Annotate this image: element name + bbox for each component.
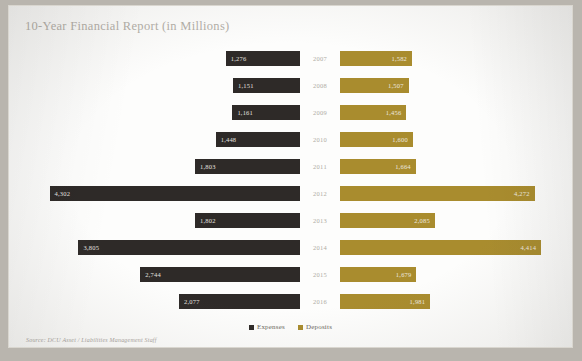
legend-label-deposits: Deposits — [306, 323, 332, 331]
chart-row: 1,80320111,664 — [9, 159, 572, 178]
legend-swatch-expenses-icon — [249, 325, 254, 330]
bar-expenses[interactable]: 2,077 — [179, 294, 300, 309]
chart-row: 3,80520144,414 — [9, 240, 572, 259]
bar-expenses[interactable]: 4,302 — [50, 186, 300, 201]
bar-value-expenses: 1,151 — [238, 82, 254, 89]
bar-deposits[interactable]: 1,582 — [340, 51, 412, 66]
category-label-year: 2016 — [300, 294, 340, 309]
chart-row: 1,16120091,456 — [9, 105, 572, 124]
bar-expenses[interactable]: 1,161 — [232, 105, 300, 120]
bar-value-expenses: 3,805 — [83, 244, 99, 251]
chart-row: 2,07720161,981 — [9, 294, 572, 313]
category-label-year: 2015 — [300, 267, 340, 282]
category-label-year: 2013 — [300, 213, 340, 228]
bar-value-deposits: 1,664 — [395, 163, 411, 170]
bar-value-deposits: 1,582 — [391, 55, 407, 62]
category-label-year: 2011 — [300, 159, 340, 174]
bar-expenses[interactable]: 1,802 — [195, 213, 300, 228]
category-label-year: 2014 — [300, 240, 340, 255]
legend-item-deposits: Deposits — [298, 323, 332, 331]
category-label-year: 2012 — [300, 186, 340, 201]
bar-value-expenses: 1,161 — [237, 109, 253, 116]
tornado-chart: 1,27620071,5821,15120081,5071,16120091,4… — [9, 48, 572, 318]
bar-value-expenses: 1,448 — [221, 136, 237, 143]
chart-row: 1,15120081,507 — [9, 78, 572, 97]
bar-value-expenses: 1,802 — [200, 217, 216, 224]
source-note: Source: DCU Asset / Liabilities Manageme… — [26, 337, 157, 343]
bar-value-deposits: 1,456 — [386, 109, 402, 116]
bar-deposits[interactable]: 2,085 — [340, 213, 435, 228]
bar-value-deposits: 4,272 — [514, 190, 530, 197]
bar-deposits[interactable]: 1,456 — [340, 105, 406, 120]
report-page: 10-Year Financial Report (in Millions) 1… — [9, 6, 572, 347]
bar-value-deposits: 2,085 — [414, 217, 430, 224]
bar-deposits[interactable]: 1,507 — [340, 78, 409, 93]
bar-value-deposits: 1,981 — [410, 298, 426, 305]
bar-expenses[interactable]: 1,448 — [216, 132, 300, 147]
category-label-year: 2009 — [300, 105, 340, 120]
chart-row: 2,74420151,679 — [9, 267, 572, 286]
bar-expenses[interactable]: 2,744 — [140, 267, 300, 282]
legend-item-expenses: Expenses — [249, 323, 285, 331]
bar-value-deposits: 1,679 — [396, 271, 412, 278]
bar-deposits[interactable]: 1,679 — [340, 267, 416, 282]
bar-deposits[interactable]: 4,414 — [340, 240, 541, 255]
bar-value-expenses: 2,077 — [184, 298, 200, 305]
bar-expenses[interactable]: 3,805 — [78, 240, 300, 255]
bar-expenses[interactable]: 1,276 — [226, 51, 300, 66]
chart-row: 1,27620071,582 — [9, 51, 572, 70]
category-label-year: 2010 — [300, 132, 340, 147]
legend-label-expenses: Expenses — [257, 323, 285, 331]
chart-row: 1,80220132,085 — [9, 213, 572, 232]
bar-value-expenses: 2,744 — [145, 271, 161, 278]
bar-deposits[interactable]: 4,272 — [340, 186, 535, 201]
category-label-year: 2008 — [300, 78, 340, 93]
bar-expenses[interactable]: 1,151 — [233, 78, 300, 93]
chart-row: 4,30220124,272 — [9, 186, 572, 205]
page-title: 10-Year Financial Report (in Millions) — [25, 19, 230, 34]
bar-value-deposits: 1,507 — [388, 82, 404, 89]
bar-deposits[interactable]: 1,600 — [340, 132, 413, 147]
chart-row: 1,44820101,600 — [9, 132, 572, 151]
bar-value-deposits: 4,414 — [520, 244, 536, 251]
bar-deposits[interactable]: 1,981 — [340, 294, 430, 309]
legend-swatch-deposits-icon — [298, 325, 303, 330]
bar-value-expenses: 4,302 — [55, 190, 71, 197]
bar-expenses[interactable]: 1,803 — [195, 159, 300, 174]
bar-value-expenses: 1,803 — [200, 163, 216, 170]
bar-value-deposits: 1,600 — [392, 136, 408, 143]
chart-legend: Expenses Deposits — [9, 323, 572, 331]
category-label-year: 2007 — [300, 51, 340, 66]
bar-deposits[interactable]: 1,664 — [340, 159, 416, 174]
bar-value-expenses: 1,276 — [231, 55, 247, 62]
